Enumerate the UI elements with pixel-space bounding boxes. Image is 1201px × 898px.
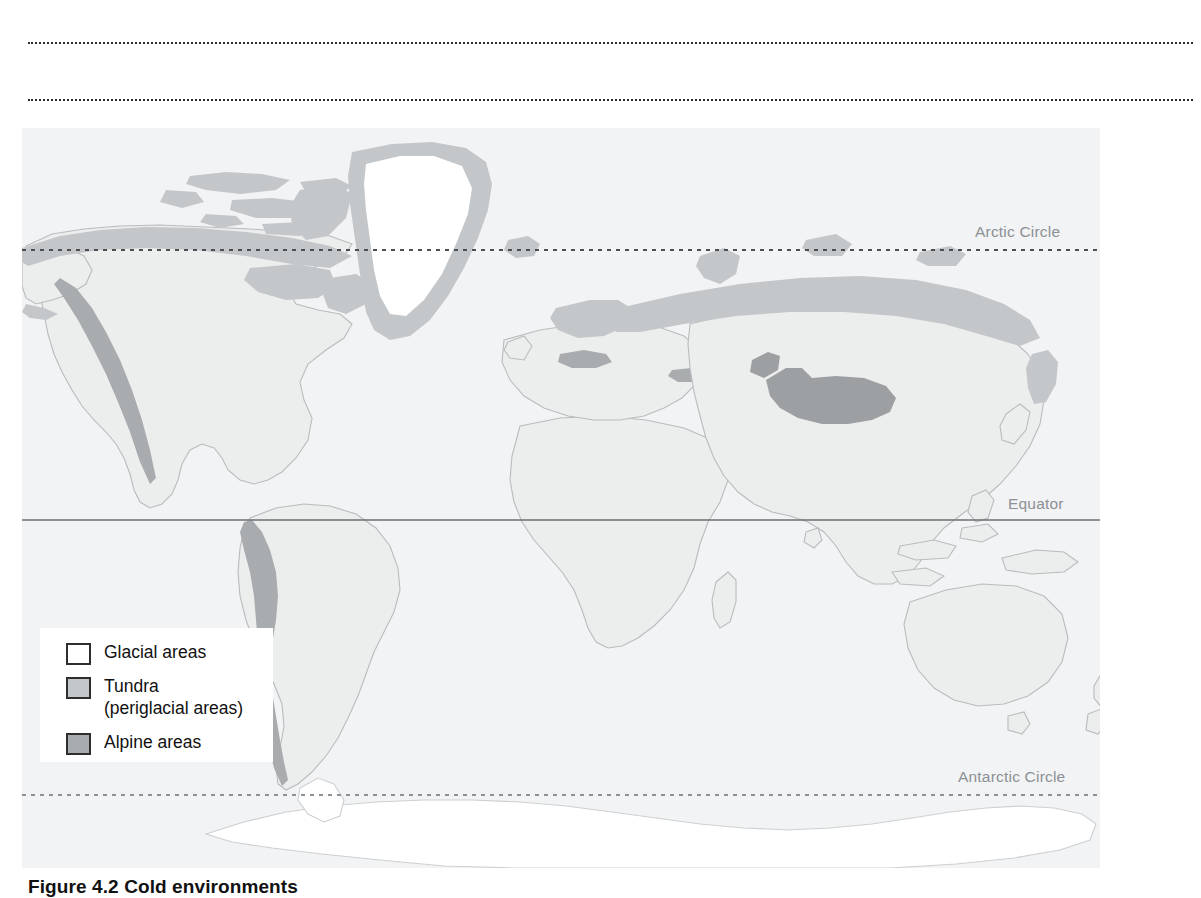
antarctic-circle-label: Antarctic Circle bbox=[958, 768, 1065, 786]
equator-label: Equator bbox=[1008, 495, 1064, 513]
figure-caption: Figure 4.2 Cold environments bbox=[28, 876, 298, 898]
legend-swatch-glacial bbox=[66, 643, 91, 665]
legend-swatch-alpine bbox=[66, 733, 91, 755]
map-legend: Glacial areas Tundra (periglacial areas)… bbox=[40, 628, 273, 762]
legend-label-alpine: Alpine areas bbox=[104, 731, 201, 753]
legend-swatch-tundra bbox=[66, 677, 91, 699]
legend-label-glacial: Glacial areas bbox=[104, 641, 206, 663]
legend-item-glacial: Glacial areas bbox=[66, 641, 206, 665]
world-map-figure: Arctic Circle Equator Antarctic Circle G… bbox=[0, 128, 1201, 868]
legend-item-alpine: Alpine areas bbox=[66, 731, 201, 755]
top-dotted-rule-2 bbox=[28, 99, 1193, 101]
legend-label-tundra: Tundra (periglacial areas) bbox=[104, 675, 243, 719]
legend-item-tundra: Tundra (periglacial areas) bbox=[66, 675, 243, 719]
top-dotted-rule-1 bbox=[28, 42, 1193, 44]
arctic-circle-label: Arctic Circle bbox=[975, 223, 1060, 241]
